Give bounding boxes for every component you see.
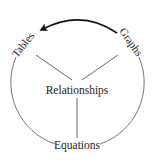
node-tables: Tables bbox=[9, 30, 36, 60]
arrow-graphs-to-tables bbox=[43, 20, 117, 33]
node-graphs: Graphs bbox=[117, 25, 145, 58]
outer-circle bbox=[11, 57, 144, 144]
center-label: Relationships bbox=[46, 84, 109, 97]
node-equations: Equations bbox=[54, 139, 101, 152]
spoke-tables bbox=[36, 55, 72, 80]
arc-graphs-equations bbox=[100, 57, 144, 144]
spoke-graphs bbox=[82, 55, 118, 80]
arc-tables-equations bbox=[11, 57, 55, 144]
diagram-canvas: Relationships Equations Tables Graphs bbox=[0, 0, 154, 163]
